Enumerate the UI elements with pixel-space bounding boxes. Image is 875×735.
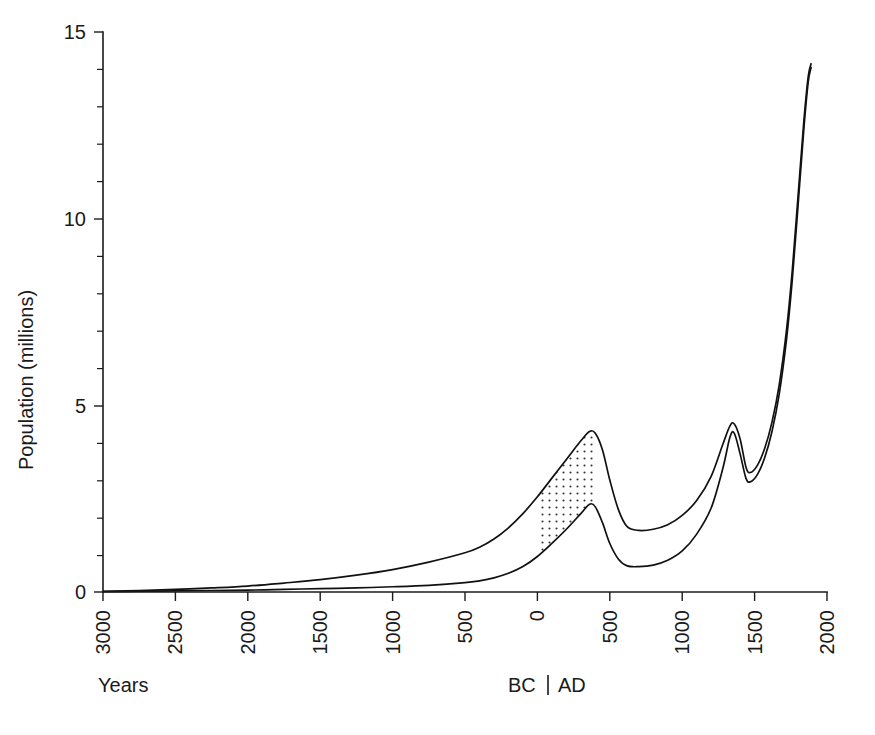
chart-page: 15 10 5 0 Population (millions) 3000 250… [0,0,875,735]
shaded-band-region [537,431,595,556]
x-tick-label-500bc: 500 [454,610,476,643]
x-tick-label-2000bc: 2000 [237,610,259,655]
y-tick-label-15: 15 [64,21,86,43]
x-tick-label-1500bc: 1500 [309,610,331,655]
y-tick-label-5: 5 [75,395,86,417]
x-tick-label-2500bc: 2500 [164,610,186,655]
x-axis-title: Years [98,674,148,696]
era-annotation: BC AD [508,674,586,696]
era-label-bc: BC [508,674,536,696]
y-axis-major-ticks [94,32,103,592]
era-label-ad: AD [558,674,586,696]
x-axis-ticks [103,592,827,601]
x-tick-label-1500ad: 1500 [744,610,766,655]
x-tick-label-500ad: 500 [599,610,621,643]
x-tick-label-3000bc: 3000 [92,610,114,655]
y-tick-label-0: 0 [75,581,86,603]
y-tick-label-10: 10 [64,208,86,230]
x-axis-tick-labels: 3000 2500 2000 1500 1000 500 0 500 1000 … [92,610,838,655]
x-tick-label-1000ad: 1000 [671,610,693,655]
y-axis-title: Population (millions) [15,290,37,470]
x-tick-label-2000ad: 2000 [816,610,838,655]
x-tick-label-1000bc: 1000 [382,610,404,655]
y-axis-tick-labels: 15 10 5 0 [64,21,86,603]
stipple-band-body [537,431,595,556]
population-chart: 15 10 5 0 Population (millions) 3000 250… [0,0,875,735]
lower-estimate-line [103,67,811,591]
y-axis-minor-ticks [97,69,103,555]
upper-estimate-line [103,64,811,592]
x-tick-label-0: 0 [526,610,548,621]
